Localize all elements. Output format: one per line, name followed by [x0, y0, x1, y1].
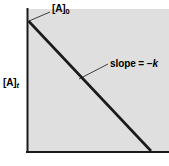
- y-axis-label-base: [A]: [3, 77, 17, 88]
- slope-annotation-prefix: slope =: [110, 58, 147, 69]
- y-axis-label: [A]t: [3, 78, 19, 88]
- plot-area-texture: [27, 9, 169, 152]
- initial-concentration-base: [A]: [52, 3, 66, 14]
- initial-concentration-subscript: 0: [66, 7, 70, 16]
- y-axis-label-subscript: t: [17, 81, 19, 90]
- kinetics-figure: [A]0 slope = −k [A]t: [0, 0, 169, 166]
- slope-annotation-symbol: k: [152, 58, 157, 69]
- plot-canvas: [0, 0, 169, 166]
- initial-concentration-label: [A]0: [52, 4, 70, 14]
- slope-annotation-label: slope = −k: [110, 59, 158, 69]
